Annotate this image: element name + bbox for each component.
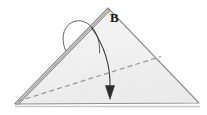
figure-canvas [0, 0, 207, 115]
figure-root: B [0, 0, 207, 115]
vertex-label-b: B [110, 11, 119, 24]
